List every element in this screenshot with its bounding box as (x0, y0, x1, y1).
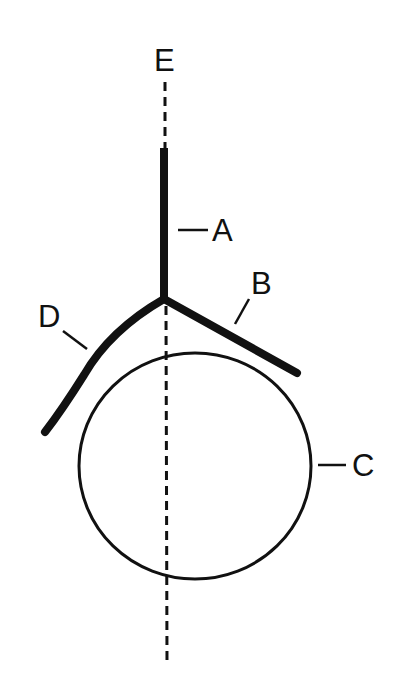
label-e: E (154, 43, 175, 78)
label-c: C (352, 448, 374, 483)
curve-d (45, 299, 164, 432)
axis-e-dashed-line-lower (166, 306, 167, 662)
leader-b (235, 299, 249, 324)
label-b: B (251, 266, 272, 301)
circle-c (79, 353, 311, 579)
leader-d (63, 331, 87, 349)
diagram-svg: E A B C D (0, 0, 403, 693)
line-b (164, 299, 297, 373)
diagram-canvas: E A B C D (0, 0, 403, 693)
label-a: A (212, 213, 233, 248)
label-d: D (38, 299, 60, 334)
